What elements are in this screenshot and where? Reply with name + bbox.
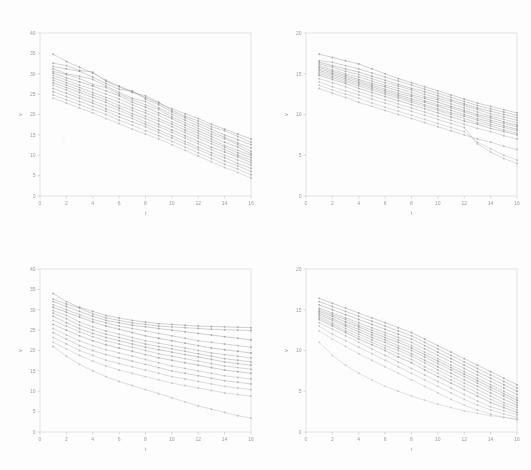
- top-right-data-point: [345, 74, 347, 76]
- bottom-right-data-point: [411, 372, 413, 374]
- top-right-data-point: [358, 74, 360, 76]
- bottom-right-data-point: [516, 384, 518, 386]
- bottom-right-data-point: [358, 324, 360, 326]
- top-left-svg: 02468101214160510152025303540vt: [0, 0, 265, 234]
- bottom-left-data-point: [171, 370, 173, 372]
- top-right-x-axis-label: t: [411, 210, 413, 216]
- bottom-left-data-point: [145, 354, 147, 356]
- bottom-right-series: [318, 310, 518, 401]
- bottom-left-data-point: [224, 369, 226, 371]
- bottom-right-data-point: [411, 362, 413, 364]
- bottom-left-y-tick-label: 10: [30, 388, 36, 394]
- top-left-data-point: [184, 122, 186, 124]
- top-left-data-point: [118, 88, 120, 90]
- bottom-left-data-point: [131, 328, 133, 330]
- top-left-data-point: [65, 61, 67, 63]
- bottom-right-data-point: [345, 319, 347, 321]
- top-left-data-point: [131, 115, 133, 117]
- top-right-data-point: [411, 92, 413, 94]
- bottom-left-data-point: [52, 328, 54, 330]
- top-left-data-point: [92, 71, 94, 73]
- bottom-right-y-tick-label: 15: [296, 307, 302, 313]
- top-right-data-point: [345, 81, 347, 83]
- bottom-right-data-point: [411, 379, 413, 381]
- bottom-left-data-point: [237, 345, 239, 347]
- top-left-data-point: [171, 114, 173, 116]
- bottom-right-data-point: [503, 402, 505, 404]
- top-right-data-point: [384, 99, 386, 101]
- bottom-left-data-point: [52, 306, 54, 308]
- bottom-left-data-point: [197, 325, 199, 327]
- bottom-right-data-point: [397, 372, 399, 374]
- top-left-data-point: [250, 138, 252, 140]
- bottom-left-data-point: [184, 331, 186, 333]
- bottom-left-data-point: [145, 321, 147, 323]
- bottom-right-data-point: [490, 395, 492, 397]
- top-right-data-point: [516, 122, 518, 124]
- bottom-right-data-point: [424, 362, 426, 364]
- top-right-data-point: [345, 90, 347, 92]
- top-left-data-point: [105, 101, 107, 103]
- bottom-right-data-point: [371, 317, 373, 319]
- bottom-left-data-point: [224, 343, 226, 345]
- bottom-left-data-point: [250, 346, 252, 348]
- top-right-data-point: [384, 76, 386, 78]
- bottom-right-data-point: [371, 337, 373, 339]
- top-right-data-point: [424, 111, 426, 113]
- bottom-right-data-point: [463, 358, 465, 360]
- top-right-data-point: [384, 109, 386, 111]
- top-left-data-point: [210, 161, 212, 163]
- top-left-data-point: [224, 141, 226, 143]
- bottom-left-data-point: [105, 325, 107, 327]
- top-right-data-point: [424, 101, 426, 103]
- top-right-data-point: [371, 83, 373, 85]
- top-right-data-point: [384, 93, 386, 95]
- top-left-data-point: [79, 89, 81, 91]
- bottom-right-data-point: [371, 323, 373, 325]
- bottom-right-data-point: [384, 385, 386, 387]
- top-right-series: [318, 84, 518, 161]
- top-left-data-point: [131, 104, 133, 106]
- bottom-right-y-tick-label: 5: [299, 388, 302, 394]
- bottom-left-data-point: [197, 345, 199, 347]
- top-right-data-point: [371, 75, 373, 77]
- top-right-data-point: [490, 105, 492, 107]
- bottom-right-data-point: [516, 411, 518, 413]
- top-left-data-point: [184, 119, 186, 121]
- top-left-data-point: [52, 97, 54, 99]
- top-right-data-point: [358, 76, 360, 78]
- chart-panel-top-left: 02468101214160510152025303540vt: [0, 0, 265, 234]
- top-right-data-point: [318, 70, 320, 72]
- top-right-series: [318, 74, 518, 135]
- top-right-data-point: [331, 77, 333, 79]
- top-left-data-point: [158, 120, 160, 122]
- top-right-data-point: [437, 105, 439, 107]
- top-left-data-point: [92, 88, 94, 90]
- bottom-right-data-point: [463, 371, 465, 373]
- top-right-data-point: [397, 96, 399, 98]
- bottom-left-x-tick-label: 2: [65, 436, 68, 442]
- top-left-data-point: [210, 149, 212, 151]
- top-left-data-point: [197, 132, 199, 134]
- top-right-data-point: [476, 143, 478, 145]
- top-left-data-point: [145, 115, 147, 117]
- bottom-left-series: [52, 312, 252, 363]
- top-right-data-point: [450, 96, 452, 98]
- bottom-right-data-point: [371, 348, 373, 350]
- top-left-data-point: [250, 164, 252, 166]
- top-right-data-point: [463, 111, 465, 113]
- top-right-data-point: [516, 159, 518, 161]
- bottom-left-data-point: [65, 311, 67, 313]
- bottom-left-x-axis-label: t: [145, 446, 147, 452]
- bottom-left-data-point: [224, 336, 226, 338]
- top-left-data-point: [250, 144, 252, 146]
- top-left-data-point: [158, 135, 160, 137]
- bottom-left-data-point: [118, 333, 120, 335]
- bottom-left-data-point: [145, 376, 147, 378]
- top-left-data-point: [184, 149, 186, 151]
- bottom-left-data-point: [131, 332, 133, 334]
- top-right-data-point: [503, 145, 505, 147]
- bottom-left-data-point: [158, 353, 160, 355]
- top-right-data-point: [437, 118, 439, 120]
- top-left-data-point: [52, 79, 54, 81]
